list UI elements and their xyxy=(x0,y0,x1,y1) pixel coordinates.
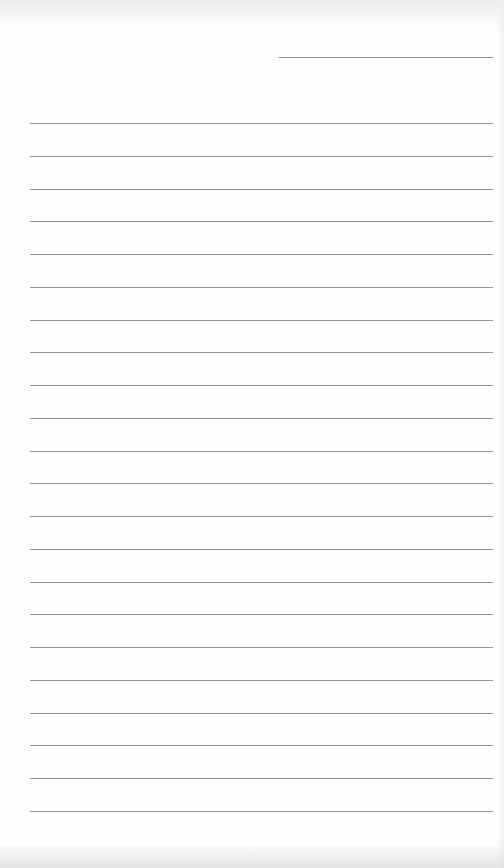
ruled-line xyxy=(30,778,493,779)
ruled-line xyxy=(30,451,493,452)
ruled-line xyxy=(30,287,493,288)
date-line xyxy=(279,57,493,58)
ruled-line xyxy=(30,189,493,190)
ruled-line xyxy=(30,811,493,812)
ruled-line xyxy=(30,516,493,517)
ruled-line xyxy=(30,385,493,386)
ruled-line xyxy=(30,254,493,255)
ruled-line xyxy=(30,614,493,615)
ruled-line xyxy=(30,582,493,583)
ruled-line xyxy=(30,483,493,484)
ruled-line xyxy=(30,745,493,746)
ruled-line xyxy=(30,680,493,681)
ruled-line xyxy=(30,221,493,222)
ruled-line xyxy=(30,418,493,419)
ruled-line xyxy=(30,156,493,157)
page-right-shadow xyxy=(498,0,504,868)
ruled-line xyxy=(30,713,493,714)
page-top-shadow xyxy=(0,0,504,28)
notepad-page xyxy=(0,0,504,868)
ruled-line xyxy=(30,647,493,648)
ruled-line xyxy=(30,123,493,124)
ruled-line xyxy=(30,549,493,550)
ruled-line xyxy=(30,352,493,353)
ruled-line xyxy=(30,320,493,321)
page-bottom-shadow xyxy=(0,844,504,868)
